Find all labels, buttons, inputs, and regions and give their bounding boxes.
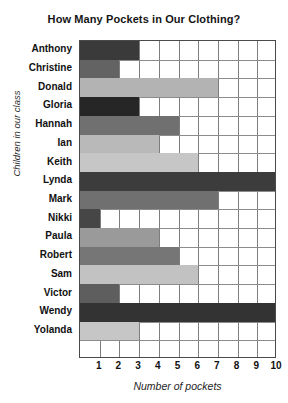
x-tick-label: 9 [245,360,267,371]
category-label: Anthony [0,44,76,54]
category-label: Donald [0,82,76,92]
bar [80,116,179,135]
category-label: Christine [0,63,76,73]
bar [80,265,198,284]
pockets-bar-chart: How Many Pockets in Our Clothing? Childr… [0,0,288,403]
x-tick-label: 5 [167,360,189,371]
bar [80,303,276,322]
x-tick-label: 3 [127,360,149,371]
bar [80,78,218,97]
category-label: Robert [0,250,76,260]
bar [80,209,100,228]
bar [80,60,119,79]
category-label: Hannah [0,119,76,129]
x-axis-tick-labels: 12345678910 [79,360,276,376]
x-tick-label: 8 [226,360,248,371]
category-label: Gloria [0,100,76,110]
category-label: Paula [0,231,76,241]
category-label: Victor [0,288,76,298]
gridline-horizontal [80,209,275,210]
x-tick-label: 4 [147,360,169,371]
category-label: Nikki [0,213,76,223]
bar [80,322,139,341]
bar [80,135,159,154]
x-tick-label: 7 [206,360,228,371]
bar [80,153,198,172]
category-label: Yolanda [0,325,76,335]
category-label: Lynda [0,175,76,185]
chart-title: How Many Pockets in Our Clothing? [0,13,288,25]
gridline-horizontal [80,340,275,341]
category-label-column: AnthonyChristineDonaldGloriaHannahIanKei… [0,40,76,358]
bar [80,191,218,210]
x-tick-label: 10 [265,360,287,371]
category-label: Wendy [0,306,76,316]
bar [80,228,159,247]
plot-area [79,40,276,358]
category-label: Sam [0,269,76,279]
category-label: Keith [0,157,76,167]
bar [80,41,139,60]
bar [80,97,139,116]
bar [80,247,179,266]
bar [80,284,119,303]
x-tick-label: 1 [88,360,110,371]
x-tick-label: 6 [186,360,208,371]
bar [80,172,276,191]
category-label: Mark [0,194,76,204]
x-tick-label: 2 [107,360,129,371]
category-label: Ian [0,138,76,148]
x-axis-label: Number of pockets [79,380,276,392]
